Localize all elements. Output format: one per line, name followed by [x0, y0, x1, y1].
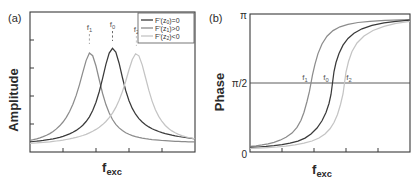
- curve-label-f1: f1: [302, 73, 307, 83]
- panel-a-legend: F'(z0)=0 F'(z1)>0 F'(z2)<0: [138, 13, 194, 43]
- panel-a: (a) Amplitude: [6, 12, 195, 177]
- curve-label-f0: f0: [323, 73, 328, 83]
- panel-a-y-axis-title: Amplitude: [6, 68, 21, 132]
- peak-label-f1: f1: [87, 23, 92, 33]
- panel-a-curve-z0: [30, 48, 195, 142]
- panel-b-ytick-pi: π: [240, 10, 247, 21]
- panel-b-curve-z2: [250, 21, 410, 148]
- panel-b: (b) Phase π π/2 0 f: [209, 10, 410, 179]
- panel-a-x-ticks: [63, 148, 162, 152]
- panel-a-curve-z1: [30, 53, 195, 142]
- panel-b-ytick-zero: 0: [241, 149, 247, 160]
- panel-a-label: (a): [8, 12, 21, 24]
- panel-b-ytick-halfpi: π/2: [232, 78, 248, 89]
- panel-b-x-axis-title: fexc: [312, 162, 332, 179]
- panel-b-x-ticks: [282, 148, 378, 152]
- panel-a-x-axis-title: fexc: [102, 160, 122, 177]
- scientific-figure: (a) Amplitude: [0, 0, 417, 182]
- panel-b-y-axis-title: Phase: [212, 73, 227, 111]
- panel-b-label: (b): [209, 12, 222, 24]
- panel-a-y-ticks: [30, 40, 34, 124]
- curve-label-f2: f2: [346, 73, 351, 83]
- peak-label-f0: f0: [110, 20, 115, 30]
